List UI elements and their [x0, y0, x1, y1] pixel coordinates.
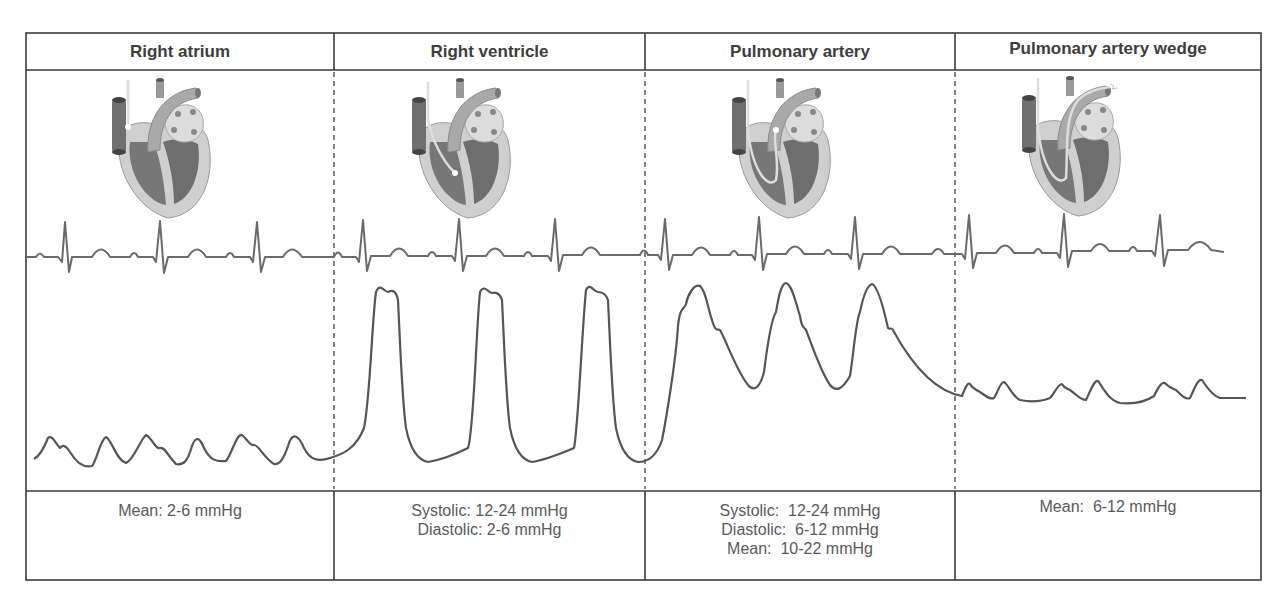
systolic-pressure: Systolic: 12-24 mmHg — [334, 501, 645, 520]
pressure-values-right-ventricle: Systolic: 12-24 mmHg Diastolic: 2-6 mmHg — [334, 491, 645, 580]
pressure-values-right-atrium: Mean: 2-6 mmHg — [26, 491, 334, 580]
heart-illustration-pulmonary-artery — [732, 78, 830, 218]
hemodynamic-pressure-diagram: Right atrium Right ventricle Pulmonary a… — [0, 0, 1281, 594]
column-title: Pulmonary artery wedge — [1009, 39, 1206, 59]
heart-illustration-pulmonary-artery-wedge — [1022, 76, 1120, 216]
systolic-pressure: Systolic: 12-24 mmHg — [645, 501, 955, 520]
heart-illustration-right-ventricle — [412, 78, 510, 218]
ecg-trace — [27, 214, 1224, 273]
column-header-right-ventricle: Right ventricle — [334, 33, 645, 70]
diastolic-pressure: Diastolic: 6-12 mmHg — [645, 520, 955, 539]
heart-illustration-right-atrium — [112, 78, 210, 218]
column-title: Pulmonary artery — [730, 42, 870, 62]
column-header-pulmonary-artery-wedge: Pulmonary artery wedge — [955, 30, 1261, 67]
pressure-values-pulmonary-artery-wedge: Mean: 6-12 mmHg — [955, 491, 1261, 580]
mean-pressure: Mean: 2-6 mmHg — [26, 501, 334, 520]
diastolic-pressure: Diastolic: 2-6 mmHg — [334, 520, 645, 539]
mean-pressure: Mean: 6-12 mmHg — [955, 497, 1261, 516]
column-title: Right atrium — [130, 42, 230, 62]
mean-pressure: Mean: 10-22 mmHg — [645, 539, 955, 558]
pressure-values-pulmonary-artery: Systolic: 12-24 mmHg Diastolic: 6-12 mmH… — [645, 491, 955, 580]
column-header-right-atrium: Right atrium — [26, 33, 334, 70]
pressure-waveform — [34, 283, 1246, 466]
column-header-pulmonary-artery: Pulmonary artery — [645, 33, 955, 70]
column-title: Right ventricle — [430, 42, 548, 62]
